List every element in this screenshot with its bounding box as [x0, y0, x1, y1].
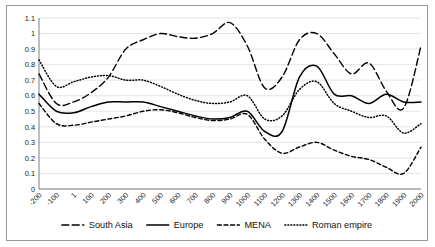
x-tick-label: 500: [150, 191, 165, 206]
y-tick-label: 0.3: [25, 138, 35, 147]
x-tick-label: 1200: [269, 191, 287, 209]
x-tick-label: -200: [27, 191, 44, 208]
series-line-mena: [39, 104, 421, 175]
x-tick-label: 700: [185, 191, 200, 206]
y-tick-label: 1: [31, 29, 35, 38]
x-tick-label: 200: [98, 191, 113, 206]
series-line-europe: [39, 65, 421, 136]
axes-group: [39, 18, 421, 189]
chart-legend: South AsiaEuropeMENARoman empire: [62, 220, 372, 230]
x-tick-label: 1300: [286, 191, 304, 209]
x-tick-label: 100: [81, 191, 96, 206]
x-tick-label: 600: [167, 191, 182, 206]
x-tick-label: 1100: [252, 191, 270, 209]
legend-label-roman-empire[interactable]: Roman empire: [312, 220, 372, 230]
x-tick-label: 1500: [321, 191, 339, 209]
x-tick-label: 1000: [234, 191, 252, 209]
x-tick-label: 1400: [303, 191, 321, 209]
x-tick-label: 1800: [373, 191, 391, 209]
y-tick-label: 0.2: [25, 154, 35, 163]
series-line-south-asia: [39, 22, 421, 110]
gridlines-group: [39, 18, 421, 189]
y-tick-label: 0.1: [25, 169, 35, 178]
y-tick-label: 0.6: [25, 91, 35, 100]
y-tick-label: 0.7: [25, 76, 35, 85]
y-tick-label: 0.9: [25, 45, 35, 54]
y-tick-label: 0.8: [25, 60, 35, 69]
x-tick-label: 800: [202, 191, 217, 206]
legend-label-south-asia[interactable]: South Asia: [89, 220, 134, 230]
data-series-group: [39, 22, 421, 174]
x-tick-label: 2000: [408, 191, 426, 209]
legend-label-europe[interactable]: Europe: [174, 220, 204, 230]
x-tick-label: 1600: [338, 191, 356, 209]
y-tick-label: 0.4: [25, 123, 35, 132]
series-line-roman-empire: [39, 60, 421, 133]
x-tick-label: 400: [133, 191, 148, 206]
y-tick-label: 0.5: [25, 107, 35, 116]
x-tick-label: -100: [44, 191, 61, 208]
chart-container: 00.10.20.30.40.50.60.70.80.911.1 -200-10…: [6, 5, 428, 241]
x-tick-label: 1700: [356, 191, 374, 209]
x-tick-label: 300: [115, 191, 130, 206]
legend-label-mena[interactable]: MENA: [244, 220, 271, 230]
y-tick-label: 1.1: [25, 14, 35, 23]
x-axis-tick-labels: -200-10011002003004005006007008009001000…: [27, 191, 426, 209]
x-tick-label: 1900: [390, 191, 408, 209]
line-chart: 00.10.20.30.40.50.60.70.80.911.1 -200-10…: [7, 6, 427, 240]
y-axis-tick-labels: 00.10.20.30.40.50.60.70.80.911.1: [25, 14, 35, 194]
x-tick-label: 1: [69, 191, 78, 200]
x-tick-label: 900: [220, 191, 235, 206]
